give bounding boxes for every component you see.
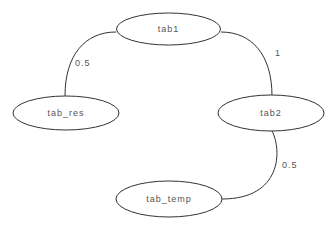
node-tab2[interactable]: tab2 xyxy=(218,95,324,131)
graph-diagram: 0.5 1 0.5 tab1 tab_res tab2 tab_temp xyxy=(0,0,336,225)
node-label: tab_res xyxy=(47,108,84,118)
edge-tab1-tab2 xyxy=(221,32,272,96)
edge-label-tab1-tab_res: 0.5 xyxy=(75,58,91,68)
node-label: tab_temp xyxy=(146,194,192,204)
edge-tab2-tab_temp xyxy=(222,131,277,199)
node-tab_temp[interactable]: tab_temp xyxy=(116,181,222,217)
edge-label-tab1-tab2: 1 xyxy=(275,48,281,58)
node-tab1[interactable]: tab1 xyxy=(117,13,221,45)
node-tab_res[interactable]: tab_res xyxy=(13,96,119,130)
edge-label-tab2-tab_temp: 0.5 xyxy=(282,160,298,170)
node-label: tab2 xyxy=(260,108,282,118)
node-label: tab1 xyxy=(158,24,180,34)
